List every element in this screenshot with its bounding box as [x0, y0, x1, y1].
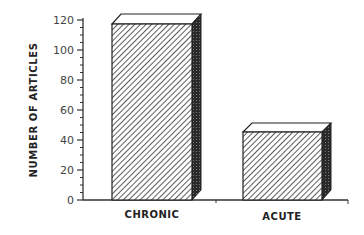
y-tick-label: 100	[53, 44, 74, 57]
x-category-label: ACUTE	[262, 211, 301, 222]
bar-side-face	[192, 14, 201, 200]
x-category-label: CHRONIC	[125, 209, 180, 220]
bar-chart: NUMBER OF ARTICLES 0 20 40 60 80 100 120	[0, 0, 364, 235]
y-major-ticks	[77, 20, 83, 200]
y-tick-label: 20	[60, 164, 74, 177]
bar-side-face	[322, 123, 331, 200]
bar-chronic	[112, 14, 201, 200]
y-tick-label: 0	[67, 194, 74, 207]
y-tick-label: 60	[60, 104, 74, 117]
bar-top-face	[112, 14, 201, 24]
y-tick-label: 40	[60, 134, 74, 147]
bar-acute	[243, 123, 331, 200]
bar-front-face	[112, 24, 192, 200]
y-axis-title: NUMBER OF ARTICLES	[28, 43, 39, 178]
bar-top-face	[243, 123, 331, 132]
y-tick-label: 80	[60, 74, 74, 87]
y-tick-label: 120	[53, 14, 74, 27]
bar-front-face	[243, 132, 322, 200]
